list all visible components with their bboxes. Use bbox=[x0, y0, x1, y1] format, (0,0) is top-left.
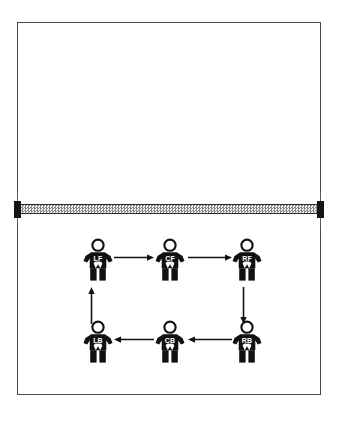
player-figure-icon bbox=[151, 320, 189, 364]
rotation-arrow-cf-to-rf bbox=[188, 254, 232, 261]
player-center-back: CB bbox=[151, 320, 189, 364]
net bbox=[14, 201, 324, 218]
player-center-front: CF bbox=[151, 238, 189, 282]
rotation-arrow-lb-to-lf bbox=[88, 287, 95, 324]
net-post-left-icon bbox=[14, 201, 21, 218]
player-left-back: LB bbox=[79, 320, 117, 364]
player-figure-icon bbox=[79, 320, 117, 364]
rotation-arrow-cb-to-lb bbox=[114, 336, 154, 343]
arrow-right-icon bbox=[114, 254, 154, 261]
player-right-back: RB bbox=[228, 320, 266, 364]
net-post-right-icon bbox=[317, 201, 324, 218]
diagram-canvas: LFCFRFRBCBLB bbox=[0, 0, 340, 422]
player-figure-icon bbox=[228, 320, 266, 364]
player-figure-icon bbox=[151, 238, 189, 282]
arrow-down-icon bbox=[240, 287, 247, 324]
player-left-front: LF bbox=[79, 238, 117, 282]
rotation-arrow-rf-to-rb bbox=[240, 287, 247, 324]
net-band bbox=[18, 204, 320, 214]
player-figure-icon bbox=[79, 238, 117, 282]
arrow-right-icon bbox=[188, 254, 232, 261]
arrow-left-icon bbox=[114, 336, 154, 343]
rotation-arrow-rb-to-cb bbox=[188, 336, 232, 343]
player-figure-icon bbox=[228, 238, 266, 282]
player-right-front: RF bbox=[228, 238, 266, 282]
rotation-arrow-lf-to-cf bbox=[114, 254, 154, 261]
arrow-left-icon bbox=[188, 336, 232, 343]
arrow-up-icon bbox=[88, 287, 95, 324]
